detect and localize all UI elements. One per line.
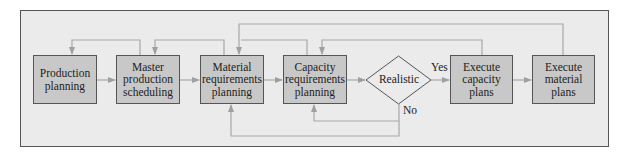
feedback-ecp-crp: [322, 40, 482, 55]
node-label: Execute: [545, 61, 582, 73]
node-label: planning: [45, 80, 85, 92]
node-label: production: [123, 73, 173, 85]
node-label: Production: [40, 67, 90, 79]
node-label: Master: [132, 61, 164, 73]
feedback-mps-pp: [72, 40, 140, 55]
node-label: material: [545, 73, 583, 85]
node-label: Execute: [463, 61, 500, 73]
node-material-requirements-planning: Materialrequirementsplanning: [200, 55, 264, 104]
node-production-planning: Productionplanning: [33, 55, 97, 104]
node-label: requirements: [202, 73, 262, 85]
node-label: planning: [212, 86, 252, 98]
node-label: scheduling: [123, 86, 173, 98]
yes-label: Yes: [431, 61, 448, 73]
node-label: plans: [469, 86, 493, 98]
node-label: capacity: [462, 73, 500, 85]
realistic-label: Realistic: [366, 73, 432, 85]
node-execute-material-plans: Executematerialplans: [532, 55, 595, 104]
node-capacity-requirements-planning: Capacityrequirementsplanning: [283, 55, 347, 104]
feedback-mrp-mps: [155, 40, 224, 55]
feedback-crp-mrp: [241, 40, 307, 55]
no-label: No: [403, 104, 417, 116]
node-label: Capacity: [295, 61, 336, 73]
node-master-production-scheduling: Masterproductionscheduling: [116, 55, 180, 104]
node-label: planning: [295, 86, 335, 98]
node-label: Material: [213, 61, 252, 73]
node-execute-capacity-plans: Executecapacityplans: [450, 55, 513, 104]
no-to-crp: [314, 104, 399, 121]
node-label: plans: [551, 86, 575, 98]
node-label: requirements: [285, 73, 345, 85]
